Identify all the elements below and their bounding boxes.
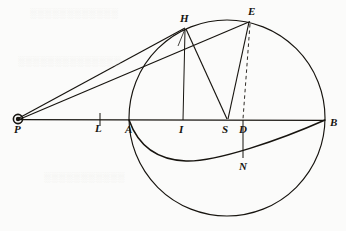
chord-ES [228,22,249,119]
bleed-through-text: ░░░░░░░░░░░░ [30,8,119,18]
point-label-A: A [125,124,132,135]
point-label-I: I [179,124,183,135]
point-label-L: L [95,123,102,134]
chord-HS [186,29,227,119]
dashed-ED [243,24,250,119]
ordinate-HI [183,30,185,120]
point-P-dot [16,117,20,121]
geometry-drawing [0,0,346,231]
point-label-D: D [239,124,247,135]
point-label-P: P [14,124,21,135]
bleed-through-text: ░░░░░░░░░░░ [44,172,125,182]
bleed-through-text: ░░░░░░░░░░░░░░ [18,56,121,66]
point-label-E: E [248,6,255,17]
axis-PB [18,120,325,121]
figure-canvas: ░░░░░░░░░░░░ ░░░░░░░░░░░░░░ ░░░░░░░░░░░ … [0,0,346,231]
point-label-S: S [222,124,228,135]
point-label-B: B [330,117,337,128]
line-PE [19,22,250,120]
point-label-H: H [180,13,189,24]
point-label-N: N [239,161,247,172]
line-PH [19,28,185,118]
